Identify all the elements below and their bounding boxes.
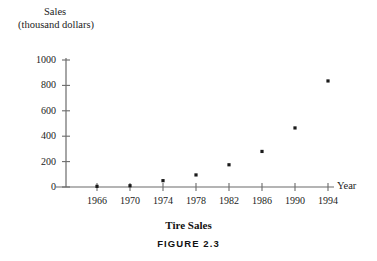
data-point — [326, 79, 329, 82]
x-tick-label: 1994 — [311, 195, 345, 206]
data-point — [194, 173, 197, 176]
x-tick-label: 1974 — [146, 195, 180, 206]
figure-caption: FIGURE 2.3 — [0, 238, 377, 249]
y-tick-label: 400 — [22, 130, 56, 141]
data-point — [260, 150, 263, 153]
y-tick-label: 1000 — [22, 54, 56, 65]
chart-title: Tire Sales — [0, 219, 377, 231]
x-tick-label: 1978 — [179, 195, 213, 206]
data-point — [128, 184, 131, 187]
data-point — [95, 185, 98, 188]
y-tick-label: 200 — [22, 156, 56, 167]
x-tick-label: 1990 — [278, 195, 312, 206]
x-tick-label: 1966 — [80, 195, 114, 206]
data-point — [161, 179, 164, 182]
x-tick-label: 1982 — [212, 195, 246, 206]
x-tick-label: 1970 — [113, 195, 147, 206]
axis-lines — [56, 58, 334, 187]
y-tick-label: 800 — [22, 79, 56, 90]
data-point — [293, 126, 296, 129]
y-tick-label: 600 — [22, 105, 56, 116]
data-point-group — [95, 79, 329, 188]
y-tick-label: 0 — [22, 181, 56, 192]
data-point — [227, 163, 230, 166]
x-tick-label: 1986 — [245, 195, 279, 206]
figure-container: Sales (thousand dollars) Year 0200400600… — [0, 0, 377, 261]
